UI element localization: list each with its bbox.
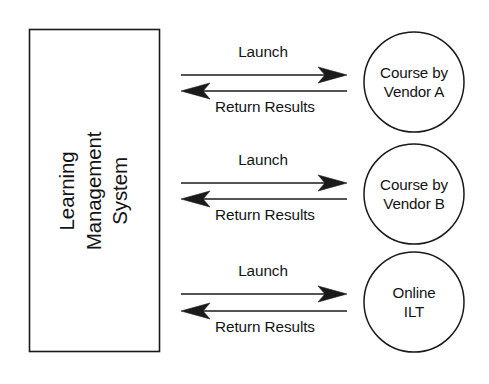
node-circle-online-ilt	[364, 252, 464, 352]
flow-group-0	[181, 67, 347, 99]
system-box	[30, 30, 160, 352]
arrow-return-2	[181, 303, 347, 319]
flow-group-2	[181, 286, 347, 319]
node-circle-course-vendor-a	[364, 32, 464, 132]
arrow-return-1	[181, 191, 347, 207]
node-circle-course-vendor-b	[364, 144, 464, 244]
arrow-launch-0	[181, 67, 347, 83]
diagram-vector-layer	[0, 0, 489, 384]
arrow-launch-1	[181, 175, 347, 191]
flow-group-1	[181, 175, 347, 207]
arrow-return-0	[181, 83, 347, 99]
diagram-canvas: Learning Management System Course by Ven…	[0, 0, 489, 384]
arrow-launch-2	[181, 286, 347, 302]
